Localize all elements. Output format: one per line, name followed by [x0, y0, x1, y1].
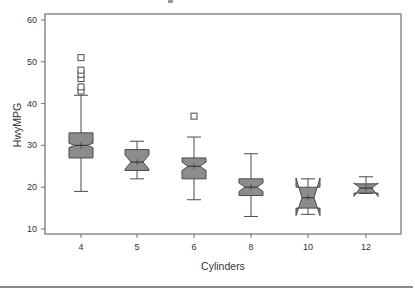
box-plot-chart: 102030405060 45681012 HwyMPG Cylinders	[0, 0, 415, 289]
y-tick-label: 30	[27, 140, 37, 150]
box-4	[69, 55, 93, 192]
y-tick-label: 50	[27, 57, 37, 67]
outlier-marker	[191, 113, 197, 119]
box-series	[69, 55, 378, 217]
x-tick-label: 5	[134, 242, 139, 252]
x-tick-label: 12	[361, 242, 371, 252]
y-axis: 102030405060	[27, 15, 45, 234]
x-tick-label: 8	[248, 242, 253, 252]
y-axis-label: HwyMPG	[11, 103, 23, 147]
box-12	[354, 177, 378, 197]
plot-border	[45, 14, 401, 234]
box-8	[239, 154, 263, 217]
plot-frame	[45, 14, 401, 234]
box-5	[125, 141, 149, 179]
y-tick-label: 20	[27, 182, 37, 192]
bottom-divider	[0, 286, 413, 288]
box-10	[296, 178, 320, 216]
box-6	[182, 113, 206, 200]
x-tick-label: 4	[78, 242, 83, 252]
x-axis: 45681012	[78, 234, 371, 252]
x-tick-label: 6	[191, 242, 196, 252]
outlier-marker	[78, 84, 84, 90]
x-tick-label: 10	[303, 242, 313, 252]
y-tick-label: 40	[27, 99, 37, 109]
outlier-marker	[78, 55, 84, 61]
y-tick-label: 60	[27, 15, 37, 25]
outlier-marker	[78, 67, 84, 73]
y-tick-label: 10	[27, 224, 37, 234]
cropped-title-fragment	[168, 0, 173, 3]
x-axis-label: Cylinders	[201, 260, 245, 272]
